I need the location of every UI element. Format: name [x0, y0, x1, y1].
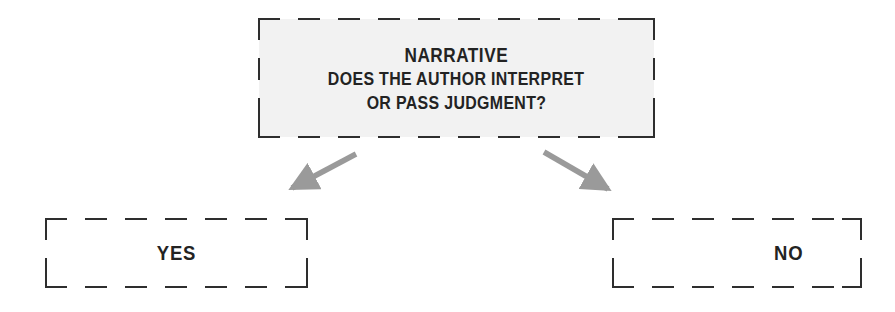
arrow-to-yes-icon [292, 154, 356, 188]
narrative-title: NARRATIVE [405, 44, 509, 68]
yes-node-content: YES [45, 218, 308, 288]
narrative-node-content: NARRATIVE DOES THE AUTHOR INTERPRET OR P… [258, 18, 655, 138]
decision-flowchart: NARRATIVE DOES THE AUTHOR INTERPRET OR P… [0, 0, 895, 312]
branch-label-yes: YES [157, 241, 197, 265]
branch-label-no: NO [774, 241, 803, 265]
no-node-content: NO [612, 218, 862, 288]
narrative-question-node: NARRATIVE DOES THE AUTHOR INTERPRET OR P… [258, 18, 655, 138]
arrow-to-no-icon [544, 152, 608, 189]
narrative-question-line-1: DOES THE AUTHOR INTERPRET [328, 67, 584, 91]
branch-node-no[interactable]: NO [612, 218, 862, 288]
branch-node-yes[interactable]: YES [45, 218, 308, 288]
narrative-question-line-2: OR PASS JUDGMENT? [367, 91, 547, 115]
